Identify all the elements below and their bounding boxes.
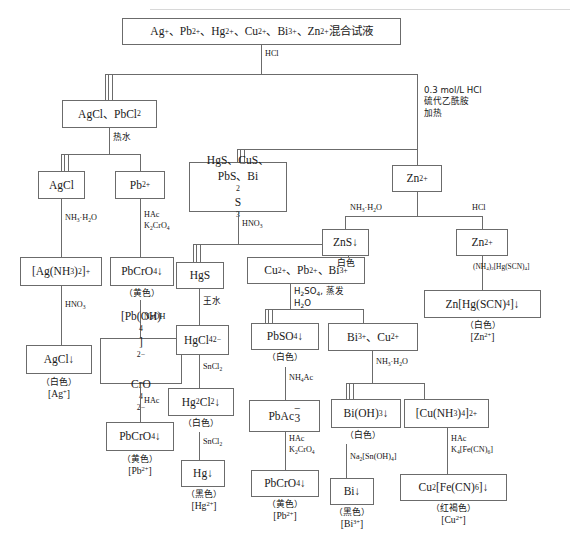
result-pbcro4-c: （黄色） [Pb2+] <box>247 499 323 523</box>
connector-pbac3-stem <box>285 432 286 470</box>
box-bi: Bi↓ <box>330 478 374 505</box>
result-color-hg: （黑色） <box>176 489 232 500</box>
connector-root-left <box>105 74 106 100</box>
result-ion-agcl: [Ag+] <box>22 388 96 400</box>
connector-sulfides-stem <box>238 212 239 244</box>
result-color-bioh3: （白色） <box>328 430 398 441</box>
box-pb2plus: Pb2+ <box>115 171 165 199</box>
result-hg: （黑色） [Hg2+] <box>176 489 232 513</box>
connector-zn2-split <box>345 216 482 217</box>
connector-precipitate-marker-5 <box>268 309 273 323</box>
connector-to-zn2 <box>417 149 418 165</box>
connector-root-right <box>417 74 418 149</box>
connector-agnh32-stem <box>61 286 62 345</box>
box-hgs: HgS <box>176 262 224 289</box>
box-agcl-pbcl2: AgCl、PbCl2 <box>62 100 157 128</box>
label-nh3h2o-bi: NH3·H2O <box>376 357 408 368</box>
label-hno3-ag: HNO3 <box>65 300 86 311</box>
connector-agcl-stem <box>61 199 62 257</box>
connector-to-pb2 <box>140 154 141 171</box>
box-zns: ZnS↓ <box>322 229 369 256</box>
box-pbso4: PbSO4↓ <box>251 323 319 350</box>
connector-agclpbcl2-stem <box>109 128 110 154</box>
connector-to-cunh34 <box>424 383 425 399</box>
connector-cunh34-stem <box>447 428 448 474</box>
result-hg2cl2: （白色） <box>168 418 234 429</box>
result-ion-znhgscn4: [Zn2+] <box>424 331 541 343</box>
box-zn2-right: Zn2+ <box>456 229 508 256</box>
connector-precipitate-marker-1 <box>108 74 113 100</box>
box-pbac3: PbAc−3 <box>249 400 320 432</box>
box-hg2cl2: Hg2Cl2↓ <box>168 388 234 416</box>
flowchart-canvas: Ag+、Pb2+、Hg2+、Cu2+、Bi3+、Zn2+混合试液 HCl 0.3… <box>0 0 573 555</box>
result-color-zns: 白色 <box>322 258 369 269</box>
box-bi-oh-3: Bi(OH)3↓ <box>331 399 401 428</box>
box-hgcl4: HgCl42− <box>176 325 229 355</box>
label-na2-sn-oh-4: Na2[Sn(OH)4] <box>350 452 397 463</box>
connector-root-split <box>105 74 417 75</box>
connector-to-zns <box>345 216 346 229</box>
connector-to-bioh3 <box>346 383 347 399</box>
result-color-znhgscn4: （白色） <box>424 320 541 331</box>
label-hac-k2cro4-pb: HAcK2CrO4 <box>144 210 170 232</box>
label-hac-k4fecn6: HAcK4[Fe(CN)6] <box>451 434 493 456</box>
label-nh4-2-hgscn4: (NH4)2[Hg(SCN)4] <box>473 262 529 273</box>
connector-pboh4-stem <box>140 384 141 422</box>
box-hg: Hg↓ <box>181 460 225 487</box>
connector-hgcl4-stem <box>199 355 200 388</box>
box-agcl: AgCl <box>38 171 85 199</box>
box-pb-oh-4-cro4: [Pb(OH)4]2−CrO42− <box>100 338 182 384</box>
connector-cupbbi-stem <box>290 284 291 309</box>
result-ion-bi: [Bi3+] <box>324 518 380 530</box>
box-pbcro4-b: PbCrO4↓ <box>106 422 174 451</box>
label-nh3h2o-zn: NH3·H2O <box>350 203 382 214</box>
result-color-pbcro4-c: （黄色） <box>247 499 323 510</box>
connector-hgs-stem <box>199 289 200 325</box>
result-pbso4: （白色） <box>251 352 319 363</box>
connector-zn2-stem <box>417 192 418 216</box>
label-nh4ac: NH4Ac <box>289 373 313 384</box>
connector-precipitate-marker-2 <box>64 154 69 171</box>
label-hot-water: 热水 <box>113 132 131 143</box>
result-zns: 白色 <box>322 258 369 269</box>
connector-hg2cl2-stem <box>199 432 200 460</box>
result-color-pbcro4-b: （黄色） <box>102 454 178 465</box>
result-ion-hg: [Hg2+] <box>176 500 232 512</box>
connector-cupbbi-split <box>265 309 363 310</box>
box-bi-cu: Bi3+、Cu2+ <box>328 323 418 351</box>
label-hno3-sulfide: HNO3 <box>242 219 263 230</box>
label-hac-pb: HAc <box>144 396 159 407</box>
result-color-pbcro4-a: （黄色） <box>110 288 174 299</box>
result-color-agcl: （白色） <box>22 377 96 388</box>
result-ion-cu2fecn6: [Cu2+] <box>400 514 507 526</box>
result-color-pbso4: （白色） <box>251 352 319 363</box>
result-ion-pbcro4-c: [Pb2+] <box>247 510 323 522</box>
result-color-cu2fecn6: （红褐色） <box>400 503 507 514</box>
box-root-mixture: Ag+、Pb2+、Hg2+、Cu2+、Bi3+、Zn2+混合试液 <box>122 18 401 45</box>
label-nh3h2o-ag: NH3·H2O <box>65 213 97 224</box>
connector-to-hgs <box>193 244 194 262</box>
box-ag-nh3-2-complex: [Ag(NH3)2]+ <box>20 257 102 286</box>
result-pbcro4-b: （黄色） [Pb2+] <box>102 454 178 478</box>
connector-group23-split <box>237 149 418 150</box>
result-cu2-fecn6: （红褐色） [Cu2+] <box>400 503 507 527</box>
label-hcl-zn: HCl <box>472 203 486 214</box>
connector-pb2-stem <box>140 199 141 257</box>
connector-precipitate-marker-6 <box>349 383 354 399</box>
connector-to-pbso4 <box>265 309 266 323</box>
label-hac-k2cro4-2: HAcK2CrO4 <box>289 434 315 456</box>
result-color-hg2cl2: （白色） <box>168 418 234 429</box>
label-hcl-root: HCl <box>265 49 279 60</box>
connector-root-stem <box>261 45 262 74</box>
connector-bicu-split <box>346 383 424 384</box>
connector-precipitate-marker-4 <box>196 244 201 262</box>
page-top-rule <box>150 9 570 10</box>
label-sncl2-2: SnCl2 <box>203 437 222 448</box>
label-group2-reagent: 0.3 mol/L HCl硫代乙酰胺加热 <box>424 85 482 119</box>
connector-pbso4-stem <box>285 367 286 400</box>
box-pbcro4-c: PbCrO4↓ <box>251 470 319 497</box>
connector-to-agcl <box>61 154 62 171</box>
label-h2so4-evaporate: H2SO4, 蒸发H2O <box>294 286 344 311</box>
box-cu-nh3-4: [Cu(NH3)4]2+ <box>404 399 489 428</box>
box-zn2-top: Zn2+ <box>392 165 442 192</box>
